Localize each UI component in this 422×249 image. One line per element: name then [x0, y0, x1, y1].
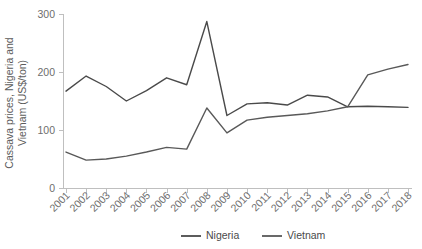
x-axis-ticks: 2001200220032004200520062007200820092010… — [47, 189, 414, 214]
x-tick-label: 2016 — [349, 189, 374, 214]
x-tick-label: 2012 — [268, 189, 293, 214]
x-tick-label: 2006 — [147, 189, 172, 214]
y-axis-ticks: 0100200300 — [37, 8, 63, 194]
y-axis-title-line-1: Cassava prices, Nigeria and — [3, 37, 15, 168]
x-tick-label: 2018 — [389, 189, 414, 214]
x-tick-label: 2002 — [67, 189, 92, 214]
chart-canvas: Cassava prices, Nigeria and Vietnam (US$… — [0, 0, 422, 249]
x-tick-label: 2013 — [288, 189, 313, 214]
series-line-nigeria — [66, 22, 408, 116]
y-axis-title: Cassava prices, Nigeria and Vietnam (US$… — [3, 37, 28, 168]
y-axis-title-line-2: Vietnam (US$/ton) — [16, 60, 28, 146]
x-tick-label: 2007 — [168, 189, 193, 214]
x-tick-label: 2017 — [369, 189, 394, 214]
x-tick-label: 2004 — [107, 189, 132, 214]
series-line-vietnam — [66, 64, 408, 160]
y-tick-label: 100 — [37, 124, 55, 136]
cassava-price-line-chart: Cassava prices, Nigeria and Vietnam (US$… — [0, 0, 422, 249]
x-tick-label: 2009 — [208, 189, 233, 214]
legend-label-vietnam: Vietnam — [287, 229, 326, 241]
x-tick-label: 2008 — [188, 189, 213, 214]
legend-label-nigeria: Nigeria — [206, 229, 239, 241]
y-tick-label: 200 — [37, 66, 55, 78]
y-tick-label: 0 — [49, 182, 55, 194]
data-series-group — [66, 22, 408, 161]
x-tick-label: 2014 — [308, 189, 333, 214]
x-tick-label: 2003 — [87, 189, 112, 214]
x-tick-label: 2010 — [228, 189, 253, 214]
y-tick-label: 300 — [37, 8, 55, 20]
x-tick-label: 2011 — [249, 189, 274, 214]
x-tick-label: 2005 — [127, 189, 152, 214]
x-tick-label: 2015 — [329, 189, 354, 214]
chart-legend: NigeriaVietnam — [181, 229, 326, 241]
